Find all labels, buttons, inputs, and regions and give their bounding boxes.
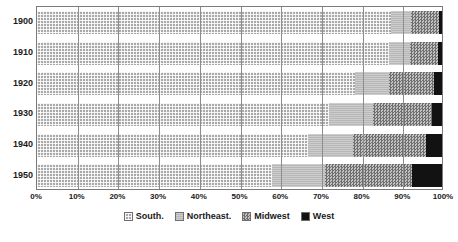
bar-segment-west <box>412 164 442 187</box>
bar-segment-midwest <box>389 72 434 95</box>
legend-label: Northeast. <box>187 211 232 221</box>
y-axis-labels: 190019101920193019401950 <box>0 6 33 190</box>
bar-segment-midwest <box>410 42 438 65</box>
x-tick-label: 30% <box>150 192 166 202</box>
bar-segment-south <box>37 72 355 95</box>
bar-segment-northeast <box>329 103 374 126</box>
bar-segment-south <box>37 134 308 157</box>
y-tick-label: 1950 <box>1 170 33 180</box>
y-tick-label: 1910 <box>1 47 33 57</box>
bar-segment-midwest <box>325 164 412 187</box>
x-tick-label: 100% <box>433 192 453 202</box>
legend-swatch-northeast-icon <box>175 212 184 221</box>
x-axis-labels: 0%10%20%30%40%50%60%70%80%90%100% <box>36 192 443 204</box>
legend-item-northeast[interactable]: Northeast. <box>175 211 232 221</box>
bar-segment-northeast <box>389 42 409 65</box>
bar-segment-west <box>438 42 442 65</box>
bars-layer <box>37 7 442 189</box>
bar-row <box>37 11 442 34</box>
bar-segment-northeast <box>391 11 411 34</box>
bar-segment-south <box>37 42 389 65</box>
x-tick-label: 90% <box>394 192 410 202</box>
x-tick-label: 0% <box>30 192 42 202</box>
legend-label: Midwest <box>254 211 290 221</box>
stacked-bar-chart: 190019101920193019401950 0%10%20%30%40%5… <box>0 0 458 242</box>
plot-area <box>36 6 443 190</box>
bar-segment-west <box>439 11 442 34</box>
bar-segment-midwest <box>373 103 432 126</box>
y-tick-label: 1900 <box>1 16 33 26</box>
bar-row <box>37 42 442 65</box>
bar-segment-midwest <box>411 11 439 34</box>
bar-row <box>37 164 442 187</box>
bar-segment-west <box>426 134 442 157</box>
bar-segment-northeast <box>308 134 353 157</box>
bar-row <box>37 103 442 126</box>
legend-label: South. <box>136 211 164 221</box>
legend-item-midwest[interactable]: Midwest <box>242 211 290 221</box>
chart-legend: South.Northeast.MidwestWest <box>0 211 458 221</box>
x-tick-label: 60% <box>272 192 288 202</box>
x-tick-label: 50% <box>231 192 247 202</box>
x-tick-label: 70% <box>313 192 329 202</box>
legend-item-west[interactable]: West <box>301 211 334 221</box>
bar-row <box>37 72 442 95</box>
bar-segment-west <box>434 72 442 95</box>
y-tick-label: 1920 <box>1 78 33 88</box>
bar-segment-south <box>37 164 272 187</box>
legend-swatch-south-icon <box>124 212 133 221</box>
legend-label: West <box>313 211 334 221</box>
legend-swatch-west-icon <box>301 212 310 221</box>
x-tick-label: 40% <box>191 192 207 202</box>
legend-swatch-midwest-icon <box>242 212 251 221</box>
bar-segment-south <box>37 103 329 126</box>
bar-segment-northeast <box>355 72 389 95</box>
bar-segment-south <box>37 11 391 34</box>
x-tick-label: 10% <box>69 192 85 202</box>
bar-row <box>37 134 442 157</box>
x-tick-label: 80% <box>354 192 370 202</box>
bar-segment-midwest <box>353 134 426 157</box>
bar-segment-northeast <box>272 164 325 187</box>
y-tick-label: 1930 <box>1 108 33 118</box>
bar-segment-west <box>432 103 442 126</box>
legend-item-south[interactable]: South. <box>124 211 164 221</box>
x-tick-label: 20% <box>109 192 125 202</box>
y-tick-label: 1940 <box>1 139 33 149</box>
